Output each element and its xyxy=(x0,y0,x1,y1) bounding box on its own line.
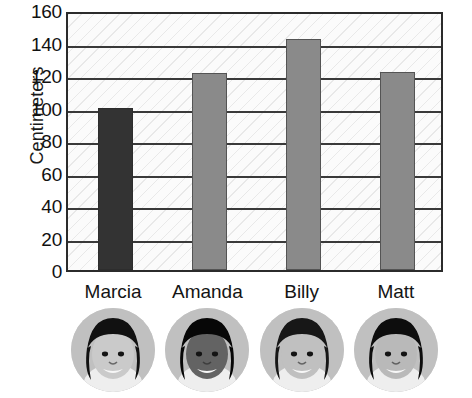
y-tick-0: 0 xyxy=(8,262,62,281)
bar-matt xyxy=(380,72,415,270)
category-label-matt: Matt xyxy=(349,281,443,303)
y-tick-20: 20 xyxy=(8,230,62,249)
y-tick-60: 60 xyxy=(8,165,62,184)
plot-area xyxy=(66,12,443,272)
bar-amanda xyxy=(192,73,227,270)
y-tick-160: 160 xyxy=(8,2,62,21)
y-axis-tick-labels: 160140120100806040200 xyxy=(4,0,62,398)
y-tick-140: 140 xyxy=(8,35,62,54)
category-label-billy: Billy xyxy=(255,281,349,303)
category-label-amanda: Amanda xyxy=(160,281,254,303)
y-tick-100: 100 xyxy=(8,100,62,119)
gridline-140 xyxy=(68,46,441,48)
y-tick-120: 120 xyxy=(8,67,62,86)
portrait-photo-marcia xyxy=(71,308,155,392)
bar-chart: Centimeters 160140120100806040200 Marcia… xyxy=(0,0,472,398)
portrait-photo-amanda xyxy=(165,308,249,392)
y-tick-40: 40 xyxy=(8,197,62,216)
category-label-marcia: Marcia xyxy=(66,281,160,303)
bar-marcia xyxy=(98,108,133,271)
bar-billy xyxy=(286,39,321,270)
portrait-photo-matt xyxy=(354,308,438,392)
x-axis-category-labels: MarciaAmandaBillyMatt xyxy=(66,281,443,305)
portrait-photo-row xyxy=(66,308,443,396)
y-tick-80: 80 xyxy=(8,132,62,151)
portrait-photo-billy xyxy=(260,308,344,392)
